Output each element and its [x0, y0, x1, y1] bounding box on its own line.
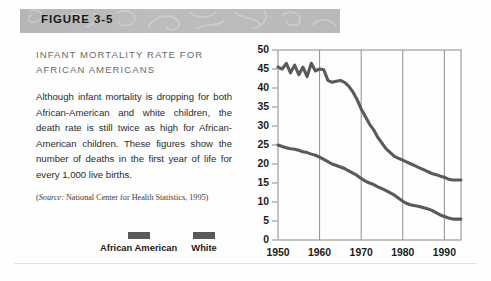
y-axis-tick-label: 40	[257, 82, 269, 93]
figure-label: FIGURE 3-5	[41, 13, 113, 25]
x-axis-tick-label: 1980	[391, 247, 414, 258]
figure-heading: INFANT MORTALITY RATE FOR AFRICAN AMERIC…	[36, 48, 232, 77]
chart-legend: African American White	[100, 232, 217, 253]
source-text: National Center for Health Statistics, 1…	[64, 193, 208, 202]
figure-text-column: INFANT MORTALITY RATE FOR AFRICAN AMERIC…	[36, 48, 232, 202]
data-line-african-american	[278, 63, 461, 180]
figure-container: FIGURE 3-5 INFANT MORTALITY RATE FOR AFR…	[0, 0, 491, 281]
figure-source-line: (Source: National Center for Health Stat…	[36, 193, 232, 202]
figure-bottom-rule	[14, 263, 477, 264]
data-line-white	[278, 145, 461, 219]
legend-swatch-white	[193, 232, 215, 239]
legend-label-white: White	[191, 242, 217, 253]
y-axis-tick-label: 5	[263, 215, 269, 226]
y-axis-tick-label: 35	[257, 101, 269, 112]
y-axis-tick-label: 50	[257, 44, 269, 55]
legend-swatch-african-american	[128, 232, 150, 239]
y-axis-tick-label: 25	[257, 139, 269, 150]
line-chart: 0510152025303540455019501960197019801990	[248, 44, 486, 259]
source-label: Source:	[39, 193, 64, 202]
legend-item-african-american: African American	[100, 232, 177, 253]
chart-area: 0510152025303540455019501960197019801990	[248, 44, 486, 259]
legend-label-african-american: African American	[100, 242, 177, 253]
y-axis-tick-label: 10	[257, 196, 269, 207]
y-axis-tick-label: 0	[263, 234, 269, 245]
y-axis-tick-label: 30	[257, 120, 269, 131]
x-axis-tick-label: 1970	[350, 247, 373, 258]
x-axis-tick-label: 1960	[308, 247, 331, 258]
y-axis-tick-label: 45	[257, 63, 269, 74]
legend-item-white: White	[191, 232, 217, 253]
y-axis-tick-label: 20	[257, 158, 269, 169]
y-axis-tick-label: 15	[257, 177, 269, 188]
x-axis-tick-label: 1990	[433, 247, 456, 258]
x-axis-tick-label: 1950	[266, 247, 289, 258]
figure-body-text: Although infant mortality is dropping fo…	[36, 89, 232, 182]
